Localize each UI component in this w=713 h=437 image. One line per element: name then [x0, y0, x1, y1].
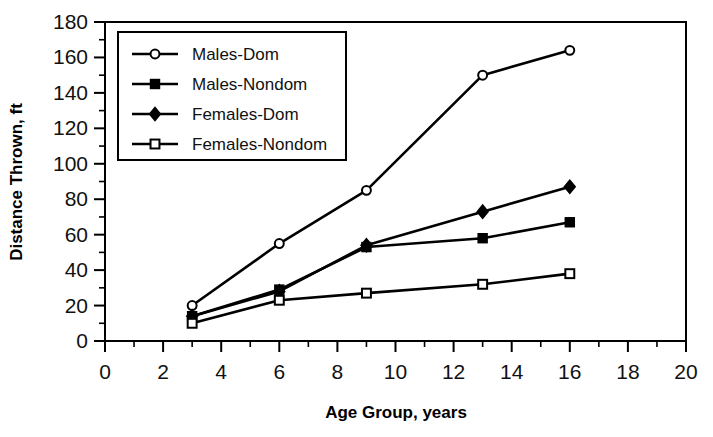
- x-tick-label: 18: [616, 360, 639, 383]
- x-tick-label: 4: [215, 360, 227, 383]
- legend-label: Females-Dom: [192, 105, 299, 124]
- y-axis-tick-labels: 020406080100120140160180: [53, 10, 88, 352]
- series-markers-females-nondom: [188, 269, 575, 328]
- x-tick-label: 0: [99, 360, 111, 383]
- legend-label: Females-Nondom: [192, 135, 327, 154]
- x-tick-label: 14: [500, 360, 524, 383]
- x-tick-label: 16: [558, 360, 581, 383]
- x-tick-label: 8: [332, 360, 344, 383]
- y-tick-label: 140: [53, 81, 88, 104]
- legend-label: Males-Nondom: [192, 75, 307, 94]
- y-tick-label: 160: [53, 45, 88, 68]
- x-tick-label: 6: [273, 360, 285, 383]
- x-axis-ticks: [105, 341, 686, 352]
- x-axis-title: Age Group, years: [325, 403, 467, 422]
- line-chart: 02468101214161820 0204060801001201401601…: [0, 0, 713, 437]
- y-axis-title: Distance Thrown, ft: [7, 103, 26, 261]
- chart-legend: Males-DomMales-NondomFemales-DomFemales-…: [118, 32, 346, 160]
- y-tick-label: 60: [65, 223, 88, 246]
- x-tick-label: 2: [157, 360, 169, 383]
- x-tick-label: 20: [674, 360, 697, 383]
- x-tick-label: 12: [442, 360, 465, 383]
- x-tick-label: 10: [384, 360, 407, 383]
- x-axis-tick-labels: 02468101214161820: [99, 360, 698, 383]
- y-tick-label: 20: [65, 294, 88, 317]
- legend-label: Males-Dom: [192, 45, 279, 64]
- y-tick-label: 40: [65, 258, 88, 281]
- series-males-nondom: [192, 222, 570, 316]
- figure-container: 02468101214161820 0204060801001201401601…: [0, 0, 713, 437]
- series-females-dom: [192, 187, 570, 316]
- y-axis-ticks: [94, 22, 105, 341]
- y-tick-label: 100: [53, 152, 88, 175]
- y-tick-label: 80: [65, 187, 88, 210]
- y-tick-label: 180: [53, 10, 88, 33]
- y-tick-label: 120: [53, 116, 88, 139]
- y-tick-label: 0: [76, 329, 88, 352]
